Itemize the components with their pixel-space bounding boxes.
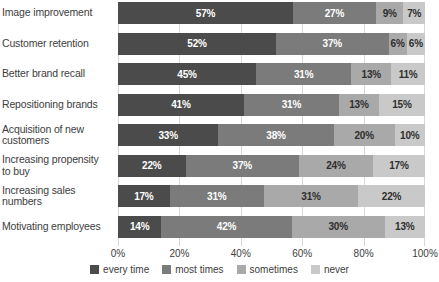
- bar-segment[interactable]: 13%: [351, 63, 391, 85]
- bar-segment[interactable]: 11%: [391, 63, 425, 85]
- bar-row[interactable]: 17%31%31%22%: [118, 185, 425, 207]
- bar-segment[interactable]: 10%: [395, 124, 425, 146]
- x-axis-tick-label: 80%: [354, 248, 374, 259]
- bar-segment[interactable]: 31%: [264, 185, 358, 207]
- bar-row[interactable]: 45%31%13%11%: [118, 63, 425, 85]
- legend-swatch-icon: [162, 265, 171, 274]
- bar-segment[interactable]: 57%: [118, 2, 293, 24]
- legend-item[interactable]: never: [311, 264, 349, 275]
- legend-label: every time: [103, 264, 149, 275]
- bar-segment[interactable]: 13%: [339, 94, 379, 116]
- bar-segment[interactable]: 37%: [276, 33, 388, 55]
- stacked-bar-chart: Image improvementCustomer retentionBette…: [0, 0, 439, 282]
- bar-segment[interactable]: 22%: [358, 185, 425, 207]
- bar-segment[interactable]: 31%: [244, 94, 339, 116]
- bar-row[interactable]: 57%27%9%7%: [118, 2, 425, 24]
- legend-item[interactable]: most times: [162, 264, 223, 275]
- category-label-line: to buy: [2, 166, 116, 178]
- category-label-line: Increasing propensity: [2, 154, 116, 166]
- bar-segment[interactable]: 31%: [256, 63, 351, 85]
- bar-segment[interactable]: 9%: [376, 2, 404, 24]
- x-axis-tick-label: 20%: [169, 248, 189, 259]
- bar-segment[interactable]: 52%: [118, 33, 276, 55]
- plot-area: 57%27%9%7%52%37%6%6%45%31%13%11%41%31%13…: [118, 2, 425, 246]
- chart-legend: every timemost timessometimesnever: [0, 264, 439, 275]
- bar-segment[interactable]: 14%: [118, 216, 161, 238]
- category-label: Increasing propensityto buy: [2, 154, 116, 177]
- legend-swatch-icon: [311, 265, 320, 274]
- x-axis-tick-label: 60%: [292, 248, 312, 259]
- legend-label: never: [324, 264, 349, 275]
- bar-segment[interactable]: 33%: [118, 124, 218, 146]
- bar-segment[interactable]: 24%: [299, 155, 373, 177]
- legend-item[interactable]: sometimes: [237, 264, 298, 275]
- category-label-line: Customer retention: [2, 38, 116, 50]
- category-label: Increasing salesnumbers: [2, 185, 116, 208]
- category-label-line: customers: [2, 135, 116, 147]
- category-label: Motivating employees: [2, 221, 116, 233]
- category-label-line: Image improvement: [2, 7, 116, 19]
- bar-segment[interactable]: 30%: [292, 216, 385, 238]
- bar-segment[interactable]: 31%: [170, 185, 264, 207]
- category-label: Better brand recall: [2, 68, 116, 80]
- bar-segment[interactable]: 41%: [118, 94, 244, 116]
- bar-segment[interactable]: 38%: [218, 124, 334, 146]
- bar-segment[interactable]: 20%: [334, 124, 395, 146]
- legend-swatch-icon: [90, 265, 99, 274]
- x-axis-tick-label: 100%: [412, 248, 438, 259]
- category-label: Image improvement: [2, 7, 116, 19]
- bar-segment[interactable]: 6%: [407, 33, 425, 55]
- category-label: Customer retention: [2, 38, 116, 50]
- bar-segment[interactable]: 13%: [385, 216, 425, 238]
- legend-item[interactable]: every time: [90, 264, 149, 275]
- bar-segment[interactable]: 37%: [186, 155, 300, 177]
- legend-swatch-icon: [237, 265, 246, 274]
- bar-segment[interactable]: 22%: [118, 155, 186, 177]
- bar-segment[interactable]: 17%: [118, 185, 170, 207]
- bar-segment[interactable]: 7%: [403, 2, 424, 24]
- bar-row[interactable]: 41%31%13%15%: [118, 94, 425, 116]
- bar-segment[interactable]: 45%: [118, 63, 256, 85]
- x-axis-tick-label: 40%: [231, 248, 251, 259]
- bar-segment[interactable]: 6%: [389, 33, 407, 55]
- legend-label: most times: [175, 264, 223, 275]
- bar-segment[interactable]: 27%: [293, 2, 376, 24]
- bar-row[interactable]: 52%37%6%6%: [118, 33, 425, 55]
- category-label-line: Repositioning brands: [2, 99, 116, 111]
- bar-row[interactable]: 33%38%20%10%: [118, 124, 425, 146]
- legend-label: sometimes: [250, 264, 298, 275]
- category-axis-labels: Image improvementCustomer retentionBette…: [0, 0, 116, 246]
- category-label: Acquisition of newcustomers: [2, 124, 116, 147]
- bar-segment[interactable]: 15%: [379, 94, 425, 116]
- bar-row[interactable]: 14%42%30%13%: [118, 216, 425, 238]
- category-label: Repositioning brands: [2, 99, 116, 111]
- category-label-line: Motivating employees: [2, 221, 116, 233]
- x-axis: 0%20%40%60%80%100%: [118, 248, 425, 262]
- bar-segment[interactable]: 42%: [161, 216, 291, 238]
- category-label-line: Better brand recall: [2, 68, 116, 80]
- bar-segment[interactable]: 17%: [373, 155, 425, 177]
- bar-row[interactable]: 22%37%24%17%: [118, 155, 425, 177]
- x-axis-tick-label: 0%: [111, 248, 125, 259]
- category-label-line: numbers: [2, 196, 116, 208]
